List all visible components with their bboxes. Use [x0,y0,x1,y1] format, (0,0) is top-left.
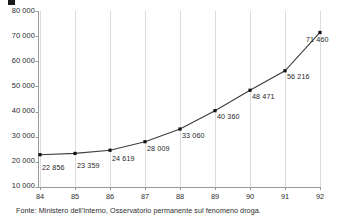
chart-figure: 80 000 70 000 60 000 50 000 40 000 30 00… [0,0,339,224]
data-point-label: 24 619 [112,155,135,163]
data-point-label: 40 360 [217,113,240,121]
source-note: Fonte: Ministero dell'Interno, Osservato… [16,206,261,215]
x-tick-label: 91 [281,193,289,201]
x-axis-tick-labels: 84 85 86 87 88 89 90 91 92 [0,0,339,224]
data-point-label: 56 216 [287,73,310,81]
x-tick-label: 86 [106,193,114,201]
x-tick-label: 85 [71,193,79,201]
x-tick-label: 87 [141,193,149,201]
data-point-label: 33 060 [182,132,205,140]
data-point-label: 28 009 [147,145,170,153]
data-point-label: 71 460 [306,36,329,44]
data-point-label: 23 359 [77,162,100,170]
x-tick-label: 88 [176,193,184,201]
data-point-label: 48 471 [252,93,275,101]
x-tick-label: 89 [211,193,219,201]
dotted-divider [0,218,339,220]
x-tick-label: 84 [36,193,44,201]
data-point-label: 22 856 [42,164,65,172]
x-tick-label: 90 [246,193,254,201]
x-tick-label: 92 [316,193,324,201]
